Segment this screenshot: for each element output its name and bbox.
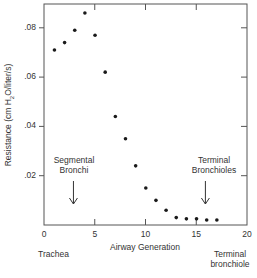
data-point: [205, 218, 209, 222]
data-point: [185, 217, 189, 221]
data-point: [83, 11, 87, 15]
data-point: [73, 28, 77, 32]
data-point: [164, 208, 168, 212]
y-axis-label: Resistance (cm H2O/liter/s): [3, 64, 15, 167]
data-point: [134, 164, 138, 168]
y-tick-label: .08: [14, 22, 36, 32]
label-terminal-bronchiole: Terminal bronchiole: [205, 250, 255, 270]
data-point: [144, 186, 148, 190]
label-trachea: Trachea: [38, 250, 69, 260]
x-tick-label: 5: [83, 229, 107, 239]
axis-ticks: [39, 4, 247, 225]
y-tick-label: .06: [14, 71, 36, 81]
data-point: [174, 216, 178, 220]
x-axis-label: Airway Generation: [103, 243, 187, 253]
annotation-terminal-bronchioles: Terminal Bronchioles: [186, 156, 242, 176]
data-point: [63, 41, 67, 45]
x-tick-label: 10: [134, 229, 158, 239]
y-tick-label: .02: [14, 170, 36, 180]
data-point: [124, 137, 128, 141]
plot-frame: [44, 4, 247, 225]
data-point: [215, 218, 219, 222]
data-points: [53, 11, 219, 222]
x-tick-label: 0: [32, 229, 56, 239]
annotation-segmental-bronchi: Segmental Bronchi: [52, 156, 96, 176]
data-point: [53, 48, 57, 52]
data-point: [103, 70, 107, 74]
data-point: [93, 33, 97, 37]
x-tick-label: 15: [184, 229, 208, 239]
data-point: [114, 115, 118, 119]
annotation-arrows: [69, 181, 209, 204]
y-tick-label: .04: [14, 120, 36, 130]
x-tick-label: 20: [235, 229, 257, 239]
data-point: [154, 199, 158, 203]
data-point: [195, 217, 199, 221]
